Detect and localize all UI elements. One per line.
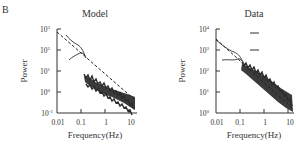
model-y-axis-label: Power (19, 60, 29, 83)
svg-text:101: 101 (40, 67, 51, 76)
model-x-tick-0: 0.01 (51, 118, 64, 127)
data-x-tick-3: 10 (286, 118, 294, 127)
svg-text:100: 100 (40, 88, 51, 97)
svg-text:103: 103 (40, 25, 51, 34)
data-x-tick-2: 1 (263, 118, 267, 127)
model-y-tick-labels: 103 102 101 100 10-1 (40, 25, 53, 118)
figure-panel-b: B Model 103 102 101 100 10-1 0.01 0.1 (0, 0, 296, 148)
panel-label: B (2, 4, 9, 15)
svg-text:102: 102 (40, 46, 51, 55)
svg-text:10-1: 10-1 (41, 109, 53, 118)
data-x-axis-label: Frequency(Hz) (227, 130, 281, 140)
model-x-tick-2: 1 (104, 118, 108, 127)
svg-text:100: 100 (199, 109, 210, 118)
model-x-axis-label: Frequency(Hz) (68, 130, 122, 140)
data-y-tick-labels: 104 103 102 101 100 (199, 25, 210, 118)
data-y-axis-label: Power (177, 60, 187, 83)
svg-text:101: 101 (199, 88, 210, 97)
svg-text:104: 104 (199, 25, 210, 34)
data-chart: Data 104 103 102 101 100 0.01 0.1 1 10 F… (177, 8, 294, 140)
data-title: Data (245, 8, 264, 19)
model-chart: Model 103 102 101 100 10-1 0.01 0.1 1 10 (19, 8, 137, 140)
model-title: Model (82, 8, 108, 19)
model-x-tick-1: 0.1 (76, 118, 86, 127)
svg-text:102: 102 (199, 67, 210, 76)
data-x-tick-0: 0.01 (210, 118, 223, 127)
data-x-tick-1: 0.1 (235, 118, 245, 127)
model-x-tick-3: 10 (127, 118, 135, 127)
svg-text:103: 103 (199, 46, 210, 55)
